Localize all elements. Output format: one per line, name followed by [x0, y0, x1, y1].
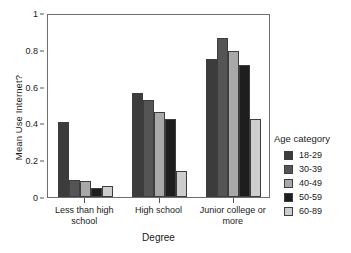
legend-item[interactable]: 40-49 — [284, 176, 351, 190]
legend-swatch-icon — [284, 151, 293, 160]
y-tick-mark — [40, 87, 44, 88]
x-tick-label: Less than high school — [45, 205, 123, 227]
bar-group — [132, 15, 187, 197]
y-tick-mark — [40, 14, 44, 15]
bar — [176, 171, 187, 197]
bar — [165, 119, 176, 197]
x-tick-label: High school — [120, 205, 198, 216]
chart-figure: Mean Use Internet? 00.20.40.60.81 Degree… — [0, 0, 351, 253]
x-tick-mark — [84, 198, 85, 203]
legend-entries: 18-2930-3940-4950-5960-89 — [274, 148, 351, 218]
bar — [206, 59, 217, 197]
legend: Age category 18-2930-3940-4950-5960-89 — [274, 133, 351, 218]
legend-item-label: 40-49 — [299, 178, 322, 188]
bar — [217, 38, 228, 197]
bar — [80, 181, 91, 197]
legend-swatch-icon — [284, 193, 293, 202]
legend-item[interactable]: 30-39 — [284, 162, 351, 176]
legend-swatch-icon — [284, 179, 293, 188]
plot-area — [47, 14, 270, 198]
y-tick-mark — [40, 198, 44, 199]
y-tick-label: 0.4 — [25, 120, 38, 129]
bar — [132, 93, 143, 197]
y-tick-label: 0.6 — [25, 83, 38, 92]
bar — [58, 122, 69, 197]
x-axis-title: Degree — [47, 232, 270, 243]
bar — [91, 188, 102, 197]
y-tick-mark — [40, 124, 44, 125]
legend-title: Age category — [274, 133, 351, 144]
bar — [228, 51, 239, 197]
y-tick-mark — [40, 50, 44, 51]
y-tick-label: 0 — [33, 194, 38, 203]
legend-item[interactable]: 18-29 — [284, 148, 351, 162]
bar-group — [206, 15, 261, 197]
bar — [143, 100, 154, 197]
bar — [154, 112, 165, 197]
legend-item-label: 30-39 — [299, 164, 322, 174]
bar — [102, 186, 113, 197]
y-tick-label: 0.2 — [25, 157, 38, 166]
bar-group — [58, 15, 113, 197]
y-tick-mark — [40, 161, 44, 162]
bar — [239, 65, 250, 197]
plot-inner — [48, 15, 269, 197]
x-tick-label: Junior college or more — [194, 205, 272, 227]
y-axis-ticks: 00.20.40.60.81 — [0, 0, 46, 253]
y-tick-label: 1 — [33, 10, 38, 19]
legend-swatch-icon — [284, 207, 293, 216]
bar — [250, 119, 261, 197]
y-tick-label: 0.8 — [25, 46, 38, 55]
legend-item-label: 60-89 — [299, 206, 322, 216]
bar — [69, 180, 80, 197]
x-tick-mark — [159, 198, 160, 203]
legend-item-label: 50-59 — [299, 192, 322, 202]
legend-item[interactable]: 50-59 — [284, 190, 351, 204]
legend-item-label: 18-29 — [299, 150, 322, 160]
x-tick-mark — [233, 198, 234, 203]
legend-swatch-icon — [284, 165, 293, 174]
legend-item[interactable]: 60-89 — [284, 204, 351, 218]
